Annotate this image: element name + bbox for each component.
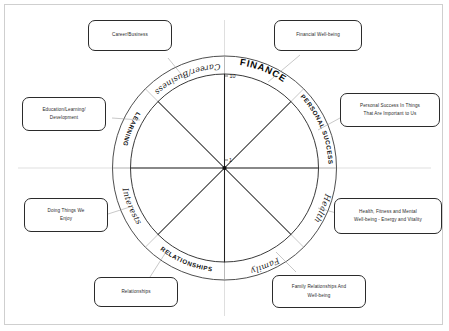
wheel-center-hub xyxy=(222,166,226,170)
callout-interests-line-2: Enjoy xyxy=(60,215,72,223)
scale-outer-value: 10 xyxy=(230,73,236,79)
ring-label-career-business: Career/Business xyxy=(153,62,221,97)
callout-education-line-2: Development xyxy=(50,114,78,122)
callout-health[interactable]: Health, Fitness and Mental Well-being - … xyxy=(334,198,442,234)
callout-education[interactable]: Education/Learning/ Development xyxy=(22,97,106,131)
wheel-of-life-diagram: 10 1 FINANCE PERSONAL SUCCESS Health Fam… xyxy=(0,0,449,331)
callout-personal-success[interactable]: Personal Success In Things That Are Impo… xyxy=(340,93,440,127)
callout-health-line-1: Health, Fitness and Mental xyxy=(359,208,417,216)
callout-family[interactable]: Family Relationships And Well-being xyxy=(272,275,366,308)
scale-inner-value: 1 xyxy=(229,157,232,163)
callout-financial-wellbeing-line-1: Financial Well-being xyxy=(296,31,340,39)
callout-personal-success-line-1: Personal Success In Things xyxy=(360,102,420,110)
ring-label-health: Health xyxy=(312,192,333,225)
callout-health-line-2: Well-being - Energy and Vitality xyxy=(354,216,422,224)
callout-relationships[interactable]: Relationships xyxy=(94,277,178,307)
callout-interests-line-1: Doing Things We xyxy=(48,207,85,215)
ring-label-relationships: RELATIONSHIPS xyxy=(159,245,213,272)
callout-relationships-line-1: Relationships xyxy=(121,288,150,296)
callout-interests[interactable]: Doing Things We Enjoy xyxy=(24,198,108,232)
callout-family-line-1: Family Relationships And xyxy=(292,283,346,291)
callout-personal-success-line-2: That Are Important to Us xyxy=(364,110,417,118)
callout-financial-wellbeing[interactable]: Financial Well-being xyxy=(274,20,362,51)
callout-career-business[interactable]: Career/Business xyxy=(88,20,172,51)
diagram-page: 10 1 FINANCE PERSONAL SUCCESS Health Fam… xyxy=(0,0,449,331)
callout-education-line-1: Education/Learning/ xyxy=(42,106,85,114)
ring-label-family: Family xyxy=(250,255,283,276)
ring-label-finance: FINANCE xyxy=(239,56,289,84)
callout-career-business-line-1: Career/Business xyxy=(112,31,148,39)
callout-family-line-2: Well-being xyxy=(308,292,331,300)
